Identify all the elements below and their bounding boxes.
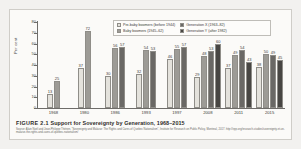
y-tick-mark-0: [34, 108, 37, 109]
bar-value-label: 45: [278, 56, 282, 60]
bar-2011-series1: 49: [232, 55, 238, 108]
bar-group-1968: 1325: [38, 22, 69, 108]
bar-1997-series2: 57: [181, 47, 187, 108]
bar-value-label: 48: [202, 52, 206, 56]
legend-label-generation-y: Generation Y (after 1982): [186, 29, 227, 33]
legend-swatch-generation-x: [180, 23, 184, 27]
bar-2015-series1: 50: [263, 54, 269, 108]
bar-value-label: 13: [48, 90, 52, 94]
bar-2011-series2: 54: [239, 50, 245, 108]
legend-swatch-generation-y: [180, 29, 184, 33]
bar-value-label: 54: [144, 46, 148, 50]
bar-value-label: 43: [247, 58, 251, 62]
bar-1986-series2: 57: [119, 47, 125, 108]
legend-column-0: Pre-baby boomers (before 1944)Baby boome…: [117, 23, 175, 33]
bar-value-label: 57: [120, 43, 124, 47]
bar-value-label: 29: [195, 73, 199, 77]
bar-1968-series1: 25: [54, 81, 60, 108]
y-tick-mark-80: [34, 22, 37, 23]
bar-1993-series1: 54: [143, 50, 149, 108]
x-tick-1993: 1993: [141, 110, 150, 115]
bar-value-label: 72: [86, 27, 90, 31]
bar-value-label: 53: [151, 47, 155, 51]
chart-plot-area: Per cent 01020304050607080 1325377230565…: [10, 10, 293, 120]
bar-1986-series0: 30: [105, 76, 111, 108]
bar-2011-series0: 37: [225, 68, 231, 108]
bar-value-label: 25: [55, 77, 59, 81]
y-tick-mark-30: [34, 76, 37, 77]
y-tick-mark-50: [34, 54, 37, 55]
bar-value-label: 49: [271, 51, 275, 55]
y-tick-mark-60: [34, 44, 37, 45]
legend-column-1: Generation X (1963–82)Generation Y (afte…: [180, 23, 227, 33]
bar-value-label: 57: [182, 43, 186, 47]
bar-1993-series0: 32: [136, 74, 142, 108]
x-tick-1986: 1986: [111, 110, 120, 115]
legend-swatch-baby-boomers: [117, 29, 121, 33]
x-tick-2015: 2015: [265, 110, 274, 115]
bar-value-label: 30: [106, 72, 110, 76]
bar-group-1980: 3772: [69, 22, 100, 108]
bar-1993-series2: 53: [150, 51, 156, 108]
bar-value-label: 50: [264, 50, 268, 54]
bar-value-label: 49: [233, 51, 237, 55]
y-tick-mark-70: [34, 33, 37, 34]
x-tick-2011: 2011: [234, 110, 243, 115]
y-tick-mark-40: [34, 65, 37, 66]
bar-1968-series0: 13: [47, 94, 53, 108]
bar-1980-series1: 72: [85, 31, 91, 108]
bar-value-label: 37: [79, 64, 83, 68]
bar-value-label: 55: [175, 45, 179, 49]
y-tick-mark-20: [34, 87, 37, 88]
figure-card: Per cent 01020304050607080 1325377230565…: [9, 9, 292, 140]
bar-2008-series3: 60: [215, 44, 221, 109]
figure-number: FIGURE 2.1: [16, 120, 49, 126]
legend-label-baby-boomers: Baby boomers (1945–62): [123, 29, 164, 33]
x-tick-1997: 1997: [172, 110, 181, 115]
bar-2015-series2: 49: [270, 55, 276, 108]
bar-2011-series3: 43: [246, 62, 252, 108]
bar-value-label: 46: [168, 55, 172, 59]
legend-label-pre-baby-boomers: Pre-baby boomers (before 1944): [123, 23, 175, 27]
bar-value-label: 32: [137, 70, 141, 74]
bar-2008-series2: 53: [208, 51, 214, 108]
x-tick-1980: 1980: [80, 110, 89, 115]
x-tick-2008: 2008: [203, 110, 212, 115]
figure-caption: FIGURE 2.1 Support for Sovereignty by Ge…: [16, 120, 287, 126]
legend-item-baby-boomers[interactable]: Baby boomers (1945–62): [117, 29, 175, 33]
legend-item-generation-y[interactable]: Generation Y (after 1982): [180, 29, 227, 33]
bar-2008-series1: 48: [201, 56, 207, 108]
figure-caption-text: Support for Sovereignty by Generation, 1…: [50, 120, 184, 126]
y-tick-mark-10: [34, 97, 37, 98]
legend-swatch-pre-baby-boomers: [117, 23, 121, 27]
bar-1997-series1: 55: [174, 49, 180, 108]
x-axis-line: [37, 108, 285, 109]
bar-2008-series0: 29: [194, 77, 200, 108]
bar-1980-series0: 37: [78, 68, 84, 108]
bar-value-label: 56: [113, 44, 117, 48]
bar-1986-series1: 56: [112, 48, 118, 108]
bar-2015-series3: 45: [277, 60, 283, 108]
bar-value-label: 37: [226, 64, 230, 68]
bar-value-label: 54: [240, 46, 244, 50]
legend-item-generation-x[interactable]: Generation X (1963–82): [180, 23, 227, 27]
bar-1997-series0: 46: [167, 59, 173, 108]
x-tick-1968: 1968: [49, 110, 58, 115]
bar-2015-series0: 38: [256, 67, 262, 108]
y-axis-title: Per cent: [13, 38, 18, 55]
chart-legend: Pre-baby boomers (before 1944)Baby boome…: [113, 20, 271, 36]
bar-value-label: 38: [257, 63, 261, 67]
x-axis-tick-labels: 19681980198619931997200820112015: [38, 110, 285, 118]
bar-value-label: 53: [209, 47, 213, 51]
legend-label-generation-x: Generation X (1963–82): [186, 23, 225, 27]
legend-item-pre-baby-boomers[interactable]: Pre-baby boomers (before 1944): [117, 23, 175, 27]
bar-value-label: 60: [216, 40, 220, 44]
figure-source-note: Source: Alain Noël and Jean-Philippe Thé…: [16, 128, 287, 135]
